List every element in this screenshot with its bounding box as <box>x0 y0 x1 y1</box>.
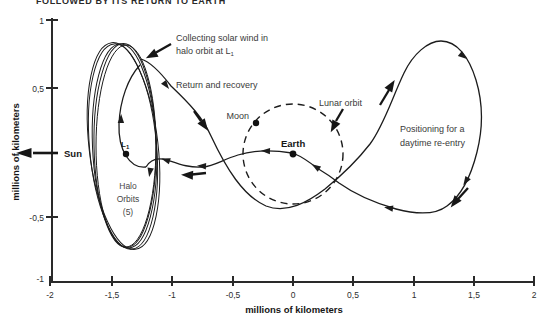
arrowhead-icon <box>197 162 206 169</box>
figure: FOLLOWED BY ITS RETURN TO EARTH 1 0,5 -0… <box>0 0 554 325</box>
y-tick-labels: 1 0,5 -0,5 -1 <box>29 16 44 284</box>
collecting-pointer-arrow-icon <box>144 44 171 62</box>
arrowhead-icon <box>261 148 270 155</box>
arrowhead-icon <box>310 162 321 172</box>
direction-arrow-icon <box>447 188 468 210</box>
lunar-orbit-label: Lunar orbit <box>319 98 363 108</box>
y-tick-label: -0,5 <box>29 213 44 223</box>
collecting-label-line2-sub: 1 <box>231 51 235 57</box>
halo-orbits-label-line3: (5) <box>123 207 134 217</box>
halo-orbits-label-line1: Halo <box>119 181 137 191</box>
x-axis-title: millions of kilometers <box>245 304 343 315</box>
positioning-label-line1: Positioning for a <box>400 124 465 134</box>
x-tick-label: -2 <box>46 290 54 300</box>
y-tick-label: -1 <box>36 274 44 284</box>
x-tick-label: -1,5 <box>105 290 120 300</box>
axes <box>46 18 534 286</box>
x-tick-label: -0,5 <box>226 290 241 300</box>
x-tick-label: 2 <box>532 290 537 300</box>
figure-title: FOLLOWED BY ITS RETURN TO EARTH <box>36 0 226 6</box>
positioning-label-line2: daytime re-entry <box>400 138 466 148</box>
collecting-label-line2-text: halo orbit at L <box>176 46 231 56</box>
l1-label: L1 <box>121 140 130 150</box>
x-tick-label: 1,5 <box>468 290 480 300</box>
trajectory-diagram: FOLLOWED BY ITS RETURN TO EARTH 1 0,5 -0… <box>0 0 554 325</box>
y-tick-label: 0,5 <box>32 84 44 94</box>
moon-dot <box>253 120 259 126</box>
collecting-label-line1: Collecting solar wind in <box>176 33 268 43</box>
sun-label: Sun <box>64 148 82 159</box>
collecting-label-line2: halo orbit at L1 <box>176 46 235 57</box>
direction-arrow-icon <box>181 170 206 180</box>
x-tick-label: -1 <box>168 290 176 300</box>
x-tick-labels: -2 -1,5 -1 -0,5 0 0,5 1 1,5 2 <box>46 290 536 300</box>
arrowhead-icon <box>146 168 154 178</box>
halo-insertion-path <box>119 65 146 167</box>
arrowhead-icon <box>461 176 471 187</box>
arrowhead-icon <box>160 155 171 164</box>
x-tick-label: 0 <box>291 290 296 300</box>
earth-label: Earth <box>281 138 305 149</box>
x-tick-label: 0,5 <box>347 290 359 300</box>
annotation-labels: Collecting solar wind in halo orbit at L… <box>64 33 466 217</box>
direction-arrow-icon <box>194 111 212 133</box>
arrowhead-icon <box>118 114 125 123</box>
l1-label-sub: 1 <box>126 144 130 150</box>
x-tick-label: 1 <box>412 290 417 300</box>
return-recovery-label: Return and recovery <box>176 80 258 90</box>
l1-dot <box>123 151 129 157</box>
moon-label: Moon <box>226 111 249 121</box>
y-tick-label: 1 <box>39 16 44 26</box>
lunar-orbit-pointer-arrow-icon <box>327 109 343 134</box>
earth-dot <box>290 151 297 158</box>
halo-orbits-label-line2: Orbits <box>117 194 140 204</box>
